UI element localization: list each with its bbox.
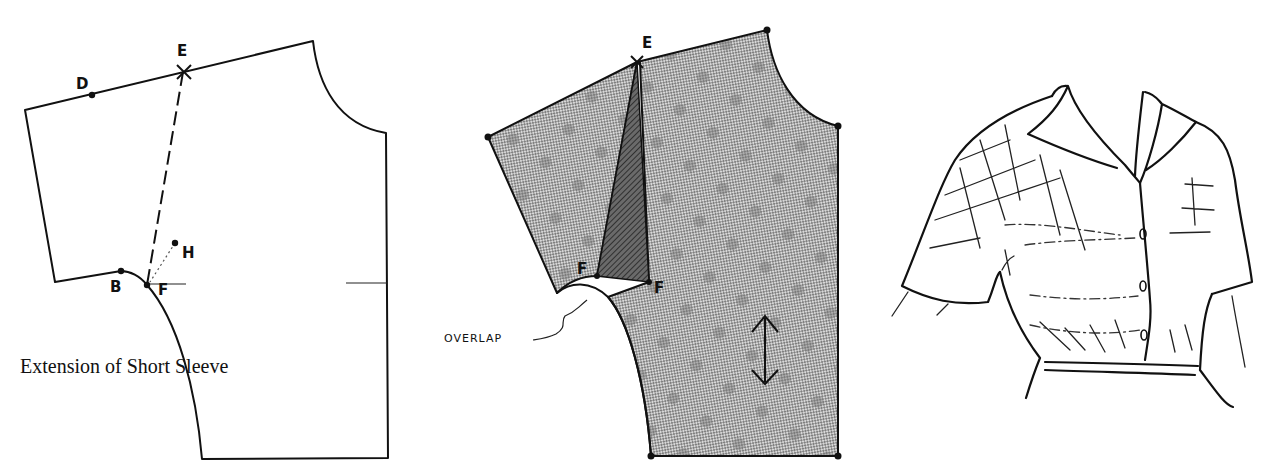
collar-left — [1028, 86, 1140, 183]
label-d: D — [76, 75, 88, 93]
label-e: E — [177, 42, 187, 60]
point-e-cross — [177, 65, 191, 79]
left-shoulder-sleeve — [902, 96, 1052, 303]
label-b: B — [110, 278, 121, 296]
corner-center-neck — [835, 123, 842, 130]
point-f-right — [646, 279, 652, 285]
figure-caption: Extension of Short Sleeve — [20, 350, 260, 382]
label-f2-right: F — [654, 279, 664, 297]
left-arm — [892, 292, 948, 316]
label-e2: E — [642, 34, 652, 52]
waistband — [1045, 362, 1198, 375]
label-overlap: OVERLAP — [444, 332, 502, 345]
right-arm — [1232, 296, 1245, 367]
label-f: F — [158, 281, 168, 299]
point-f-left — [594, 273, 600, 279]
overlap-leader — [533, 300, 587, 340]
point-d — [89, 92, 95, 98]
right-shoulder-sleeve — [1196, 122, 1252, 294]
point-h — [172, 240, 178, 246]
pattern-panel: E F F OVERLAP — [444, 27, 842, 460]
corner-side-waist — [648, 453, 655, 460]
button — [1140, 281, 1146, 291]
blouse-illustration — [892, 86, 1252, 407]
shoulder-to-f-line — [147, 72, 183, 285]
point-b — [118, 268, 124, 274]
plaid-lines — [930, 125, 1214, 352]
pattern-diagram: D E B F H E F F OVERLAP — [0, 0, 1264, 476]
collar-right — [1135, 92, 1196, 183]
left-side-seam — [1000, 272, 1040, 398]
right-side-seam — [1200, 294, 1233, 407]
draft-panel: D E B F H — [25, 41, 388, 459]
bodice-outline — [25, 41, 388, 459]
corner-center-waist — [835, 453, 842, 460]
label-f2-left: F — [577, 260, 587, 278]
point-f — [144, 282, 150, 288]
label-h: H — [182, 244, 195, 262]
corner-shoulder-neck — [764, 27, 771, 34]
button — [1141, 330, 1147, 340]
h-guide-line — [150, 243, 175, 282]
corner-sleeve-top — [485, 134, 492, 141]
